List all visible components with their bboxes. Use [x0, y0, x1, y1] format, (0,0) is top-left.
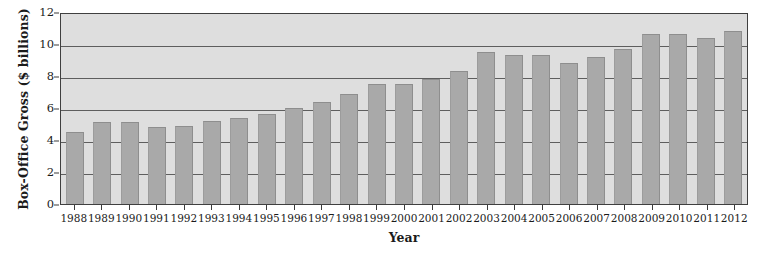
- x-tick-mark: [459, 205, 460, 210]
- x-tick-mark: [184, 205, 185, 210]
- bar: [258, 114, 276, 204]
- x-tick-label: 1994: [226, 211, 253, 225]
- bar: [340, 94, 358, 204]
- x-tick-mark: [734, 205, 735, 210]
- x-tick-label: 2001: [418, 211, 445, 225]
- x-tick-label: 1991: [143, 211, 170, 225]
- x-tick-label: 2006: [556, 211, 583, 225]
- x-tick-mark: [294, 205, 295, 210]
- x-tick-label: 2010: [666, 211, 693, 225]
- x-tick-label: 2004: [501, 211, 528, 225]
- x-tick-mark: [376, 205, 377, 210]
- bar-series: [61, 14, 747, 204]
- x-tick-mark: [624, 205, 625, 210]
- bar-chart: Box-Office Gross ($ billions) 024681012 …: [0, 0, 776, 256]
- bar: [697, 38, 715, 204]
- x-tick-mark: [569, 205, 570, 210]
- y-tick-label: 10: [39, 39, 54, 51]
- bar: [66, 132, 84, 204]
- x-tick-label: 1989: [88, 211, 115, 225]
- bar: [450, 71, 468, 204]
- x-tick-label: 1995: [253, 211, 280, 225]
- bar: [532, 55, 550, 204]
- x-tick-label: 1992: [170, 211, 197, 225]
- bar: [669, 34, 687, 204]
- x-tick-mark: [597, 205, 598, 210]
- bar: [93, 122, 111, 204]
- y-tick-mark: [54, 205, 59, 206]
- x-tick-mark: [239, 205, 240, 210]
- x-tick-label: 2012: [721, 211, 748, 225]
- bar: [121, 122, 139, 204]
- bar: [148, 127, 166, 204]
- x-tick-label: 1998: [336, 211, 363, 225]
- x-tick-label: 2002: [446, 211, 473, 225]
- x-tick-mark: [266, 205, 267, 210]
- x-tick-label: 2000: [391, 211, 418, 225]
- bar: [175, 126, 193, 204]
- bar: [642, 34, 660, 204]
- y-tick-mark: [54, 45, 59, 46]
- x-axis-tick-labels: 1988198919901991199219931994199519961997…: [60, 211, 748, 227]
- x-tick-label: 2007: [583, 211, 610, 225]
- bar: [477, 52, 495, 204]
- x-tick-mark: [707, 205, 708, 210]
- y-tick-label: 6: [47, 103, 54, 115]
- bar: [614, 49, 632, 204]
- x-tick-label: 2009: [638, 211, 665, 225]
- x-tick-mark: [514, 205, 515, 210]
- y-tick-mark: [54, 77, 59, 78]
- y-axis-tick-labels: 024681012: [30, 13, 54, 205]
- x-tick-mark: [487, 205, 488, 210]
- x-tick-label: 1988: [60, 211, 87, 225]
- x-axis-title: Year: [60, 230, 748, 245]
- bar: [724, 31, 742, 204]
- x-tick-mark: [542, 205, 543, 210]
- y-tick-label: 2: [47, 167, 54, 179]
- bar: [505, 55, 523, 204]
- x-tick-mark: [101, 205, 102, 210]
- x-tick-label: 1999: [363, 211, 390, 225]
- x-tick-label: 1997: [308, 211, 335, 225]
- bar: [203, 121, 221, 204]
- x-tick-mark: [156, 205, 157, 210]
- x-tick-mark: [321, 205, 322, 210]
- bar: [560, 63, 578, 204]
- y-tick-mark: [54, 13, 59, 14]
- x-tick-mark: [211, 205, 212, 210]
- x-tick-mark: [432, 205, 433, 210]
- bar: [368, 84, 386, 204]
- bar: [422, 79, 440, 204]
- x-tick-label: 2008: [611, 211, 638, 225]
- x-tick-label: 2003: [473, 211, 500, 225]
- x-tick-label: 2005: [528, 211, 555, 225]
- bar: [587, 57, 605, 204]
- x-tick-label: 1993: [198, 211, 225, 225]
- x-tick-label: 2011: [693, 211, 720, 225]
- y-tick-mark: [54, 109, 59, 110]
- x-tick-mark: [129, 205, 130, 210]
- y-tick-mark: [54, 141, 59, 142]
- x-tick-mark: [404, 205, 405, 210]
- y-tick-mark: [54, 173, 59, 174]
- x-tick-label: 1996: [281, 211, 308, 225]
- bar: [230, 118, 248, 204]
- x-tick-mark: [679, 205, 680, 210]
- bar: [395, 84, 413, 204]
- y-tick-label: 12: [39, 7, 54, 19]
- plot-area: [60, 13, 748, 205]
- y-tick-label: 4: [47, 135, 54, 147]
- bar: [285, 108, 303, 204]
- y-tick-label: 0: [47, 199, 54, 211]
- y-tick-label: 8: [47, 71, 54, 83]
- x-tick-mark: [349, 205, 350, 210]
- x-axis-tick-marks: [60, 205, 748, 210]
- bar: [313, 102, 331, 204]
- x-tick-mark: [74, 205, 75, 210]
- x-tick-label: 1990: [115, 211, 142, 225]
- x-tick-mark: [652, 205, 653, 210]
